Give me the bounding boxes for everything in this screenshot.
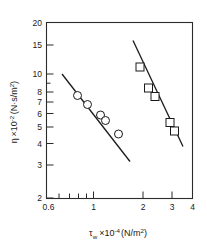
x-axis-scale: ×10: [99, 228, 114, 238]
y-tick-label: 6: [37, 109, 42, 119]
y-axis-scale: ×10: [9, 121, 19, 136]
data-point-square: [136, 63, 144, 71]
y-tick-label: 10: [33, 69, 43, 79]
data-point-circle: [84, 101, 92, 109]
series-circles-trend-line: [62, 74, 130, 162]
loglog-scatter-plot: 20 15 10 8 7 6 5 4 3 2 0.6 1 2 3 4: [0, 0, 207, 252]
data-point-square: [166, 119, 174, 127]
x-tick-labels: 0.6 1 2 3 4: [43, 202, 196, 212]
y-tick-label: 2: [37, 193, 42, 203]
svg-text:η×10-2(N·s/m2): η×10-2(N·s/m2): [8, 81, 19, 143]
x-axis-units-close: ): [144, 228, 147, 238]
y-axis-title: η×10-2(N·s/m2): [8, 81, 19, 143]
y-tick-label: 4: [37, 139, 42, 149]
y-axis-symbol: η: [9, 138, 19, 143]
data-point-square: [145, 84, 153, 92]
data-point-circle: [115, 130, 123, 138]
y-axis-units: (N·s/m: [9, 87, 19, 114]
y-axis-units-close: ): [9, 81, 19, 84]
data-point-circle: [102, 117, 110, 125]
x-axis-exponent: -4: [114, 227, 120, 234]
x-tick-label: 4: [190, 202, 195, 212]
series-squares-markers: [136, 63, 179, 135]
x-axis-units: (N/m: [121, 228, 141, 238]
x-axis-ticks: [47, 192, 193, 199]
y-tick-label: 7: [37, 97, 42, 107]
y-tick-labels: 20 15 10 8 7 6 5 4 3 2: [33, 18, 43, 204]
y-tick-label: 15: [33, 40, 43, 50]
y-tick-label: 20: [33, 18, 43, 28]
plot-frame: [47, 23, 193, 199]
y-tick-label: 5: [37, 122, 42, 132]
data-point-circle: [74, 92, 82, 100]
x-tick-label: 2: [141, 202, 146, 212]
svg-text:τw×10-4(N/m2): τw×10-4(N/m2): [89, 227, 147, 240]
x-tick-label: 3: [170, 202, 175, 212]
y-tick-label: 8: [37, 87, 42, 97]
y-axis-ticks: [47, 23, 54, 199]
x-tick-label: 0.6: [43, 202, 55, 212]
data-point-square: [171, 127, 179, 135]
x-tick-label: 1: [91, 202, 96, 212]
x-axis-subscript: w: [92, 233, 98, 240]
series-circles-markers: [74, 92, 123, 139]
figure-container: 20 15 10 8 7 6 5 4 3 2 0.6 1 2 3 4: [0, 0, 207, 252]
data-point-square: [151, 93, 159, 101]
y-tick-label: 3: [37, 160, 42, 170]
y-axis-exponent: -2: [8, 115, 15, 121]
x-axis-title: τw×10-4(N/m2): [89, 227, 147, 240]
